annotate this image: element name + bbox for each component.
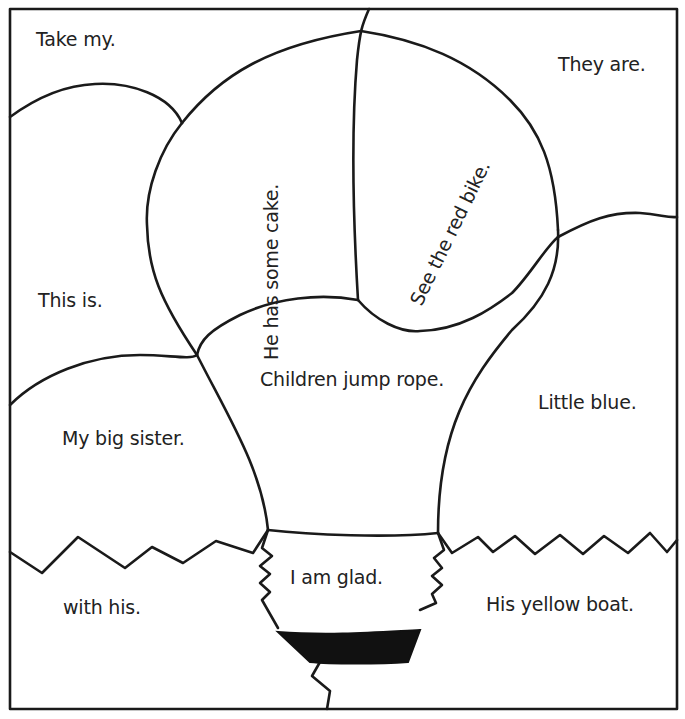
base-right-squiggle — [420, 533, 444, 610]
region-with-his[interactable]: with his. — [63, 598, 141, 617]
right-zigzag-line — [438, 533, 677, 554]
bulb-left-outline — [147, 123, 197, 355]
bulb-right-outline — [438, 230, 558, 533]
region-i-am-glad[interactable]: I am glad. — [290, 568, 383, 587]
bike-lobe-outline — [358, 237, 558, 331]
base-left-squiggle — [260, 530, 278, 628]
bulb-base-black-band — [278, 630, 420, 664]
bulb-center-divider — [353, 9, 369, 300]
region-little-blue[interactable]: Little blue. — [538, 393, 636, 412]
bottom-crack-line — [312, 662, 330, 709]
bulb-top-outline — [182, 31, 558, 230]
bulb-neck-line — [268, 530, 438, 536]
region-children-jump-rope[interactable]: Children jump rope. — [260, 370, 444, 389]
left-zigzag-line — [10, 530, 268, 573]
bulb-lower-left-outline — [197, 355, 268, 530]
region-he-has-some-cake[interactable]: He has some cake. — [262, 184, 281, 360]
region-they-are[interactable]: They are. — [558, 55, 646, 74]
region-my-big-sister[interactable]: My big sister. — [62, 429, 185, 448]
region-take-my[interactable]: Take my. — [36, 30, 116, 49]
region-this-is[interactable]: This is. — [38, 291, 102, 310]
left-upper-hill-line — [10, 84, 182, 123]
region-his-yellow-boat[interactable]: His yellow boat. — [486, 595, 634, 614]
right-hill-line — [558, 213, 677, 237]
left-lower-hill-line — [10, 355, 197, 405]
